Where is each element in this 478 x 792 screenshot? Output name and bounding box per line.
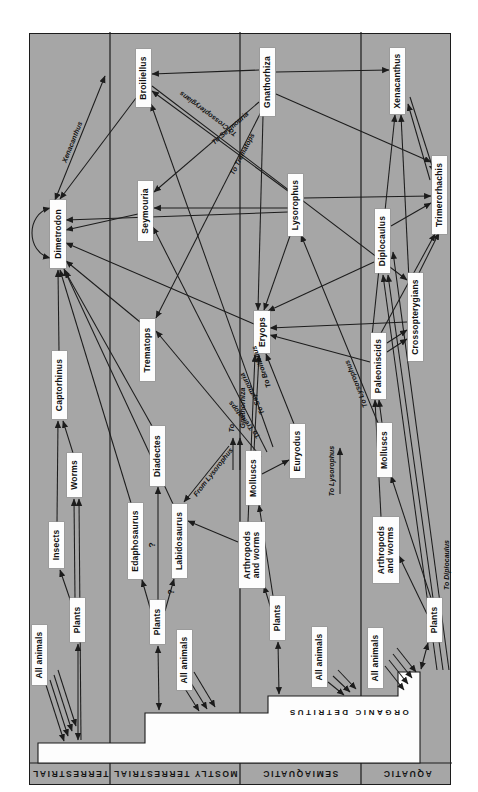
node-gnathorhiza: Gnathorhiza bbox=[260, 48, 275, 116]
node-molluscs-aquatic: Molluscs bbox=[377, 423, 392, 477]
node-trimerorhachis: Trimerorhachis bbox=[432, 156, 447, 234]
food-web-figure: { "figure": { "detritus_label": "ORGANIC… bbox=[0, 0, 478, 792]
node-trematops: Trematops bbox=[140, 319, 155, 381]
edge-label-to-gnathorhiza-line1: To bbox=[228, 424, 235, 432]
node-euryodus: Euryodus bbox=[290, 424, 305, 478]
organic-detritus-pool bbox=[38, 672, 420, 763]
node-all-animals-aquatic: All animals bbox=[368, 628, 383, 688]
edge-label-to-gnathorhiza-line2: Gnathorhiza bbox=[239, 388, 246, 429]
node-crossopterygians: Crossopterygians bbox=[408, 273, 423, 361]
node-dimetrodon: Dimetrodon bbox=[50, 200, 66, 268]
edge-label-to-diplocaulus: To Diplocaulus bbox=[443, 540, 450, 590]
band-label-aquatic: AQUATIC bbox=[382, 769, 431, 779]
band-label-terrestrial: TERRESTRIAL bbox=[31, 769, 108, 779]
node-plants-aquatic: Plants bbox=[427, 598, 442, 642]
node-diadectes: Diadectes bbox=[150, 426, 165, 486]
node-arthropods-and-worms-aquatic: Arthropods and worms bbox=[373, 517, 399, 583]
edge-label-to-lysorophus-horizontal: To Lysorophus bbox=[328, 446, 335, 496]
node-all-animals-mostly-terrestrial: All animals bbox=[177, 630, 192, 690]
organic-detritus-label: ORGANIC DETRITUS bbox=[287, 708, 409, 717]
node-all-animals-terrestrial: All animals bbox=[32, 625, 47, 685]
node-lysorophus: Lysorophus bbox=[288, 174, 303, 236]
node-seymouria: Seymouria bbox=[138, 181, 153, 241]
node-broiliellus: Broiliellus bbox=[136, 49, 151, 107]
node-paleoniscids: Paleoniscids bbox=[371, 333, 386, 399]
node-labidosaurus: Labidosaurus bbox=[172, 504, 187, 578]
node-molluscs-semiaquatic: Molluscs bbox=[246, 451, 261, 505]
node-all-animals-semiaquatic: All animals bbox=[312, 627, 327, 687]
node-edaphosaurus: Edaphosaurus bbox=[128, 503, 143, 579]
band-label-semiaquatic: SEMIAQUATIC bbox=[262, 769, 338, 779]
uncertainty-mark-labidosaurus: ? bbox=[166, 589, 176, 595]
node-plants-semiaquatic: Plants bbox=[270, 596, 285, 640]
node-insects: Insects bbox=[49, 522, 64, 568]
rotated-diagram-stage: All animals Plants Insects Worms Captorh… bbox=[0, 0, 478, 792]
node-diplocaulus: Diplocaulus bbox=[375, 209, 390, 273]
uncertainty-mark-diadectes: ? bbox=[147, 542, 157, 548]
node-plants-terrestrial: Plants bbox=[70, 598, 85, 642]
node-plants-mostly-terrestrial: Plants bbox=[150, 600, 165, 644]
node-worms: Worms bbox=[67, 453, 82, 497]
band-label-mostly-terrestrial: MOSTLY TERRESTRIAL bbox=[112, 769, 237, 779]
node-arthropods-and-worms-semiaquatic: Arthropods and worms bbox=[239, 522, 265, 588]
node-xenacanthus-aquatic: Xenacanthus bbox=[390, 48, 405, 114]
node-captorhinus: Captorhinus bbox=[52, 351, 67, 419]
